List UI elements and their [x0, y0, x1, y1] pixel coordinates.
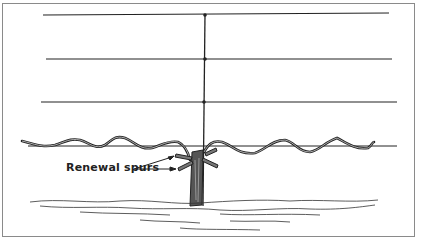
trellis-wire-top — [43, 13, 389, 15]
ground-soil — [30, 200, 378, 230]
vine-trellis-illustration — [0, 0, 428, 242]
trellis-post — [203, 14, 205, 206]
renewal-spurs-label: Renewal spurs — [66, 161, 159, 174]
